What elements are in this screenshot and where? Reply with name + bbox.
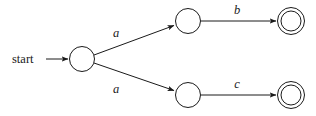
states-group [70,8,305,109]
state-q1-circle[interactable] [176,9,201,34]
state-q4-accepting[interactable] [278,82,305,109]
transition-q0-q2-line [94,63,174,91]
state-q0-circle[interactable] [70,47,95,72]
automaton-diagram: start a a b c [0,0,316,116]
transition-label-q0-q1: a [113,26,119,40]
transition-q0-q1-line [94,26,174,56]
transition-label-q2-q4: c [234,77,240,91]
state-q2-circle[interactable] [176,83,201,108]
transition-label-q0-q2: a [113,82,119,96]
automaton-canvas: start a a b c [0,0,316,116]
transition-label-q1-q3: b [234,3,240,17]
labels-group: start a a b c [12,3,240,96]
start-label: start [12,52,34,66]
state-q3-accepting[interactable] [278,8,305,35]
state-q3-inner-circle [281,11,301,31]
state-q4-inner-circle [281,85,301,105]
